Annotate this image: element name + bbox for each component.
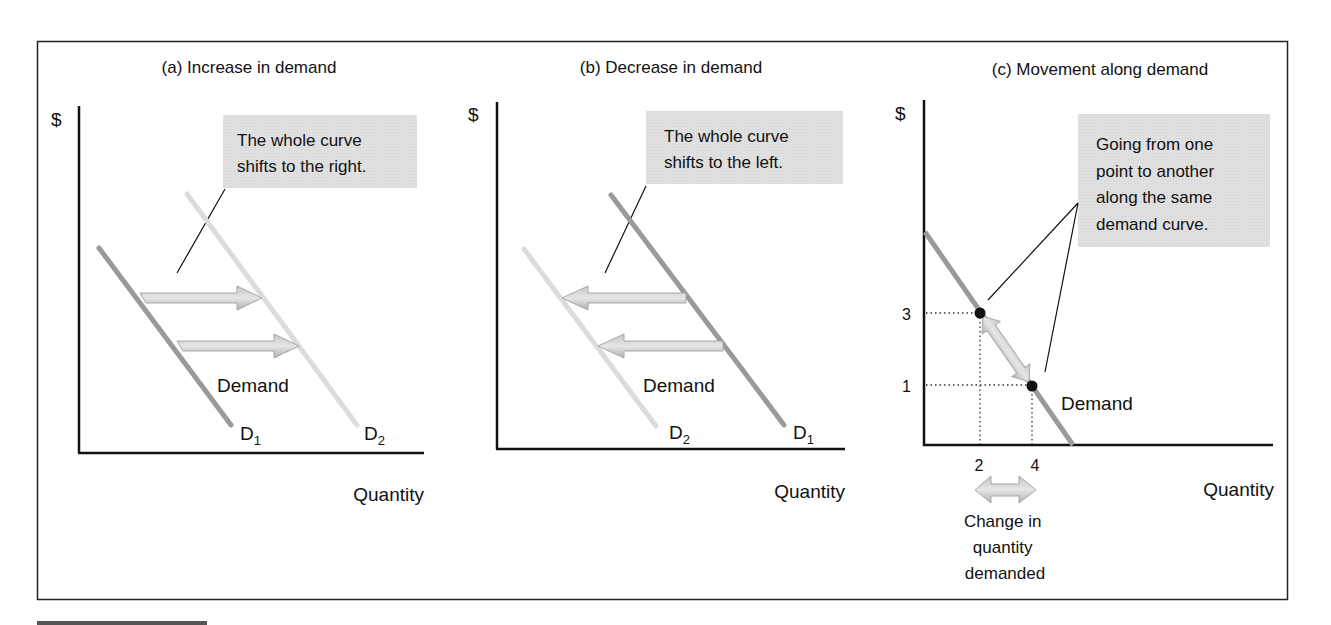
panel-b-title: (b) Decrease in demand xyxy=(580,58,762,77)
panel-b-demand-label: Demand xyxy=(643,375,715,396)
callout-line: point to another xyxy=(1096,162,1214,181)
panel-c-point-4-1 xyxy=(1027,381,1038,392)
panel-b-shift-arrow-lower xyxy=(598,334,723,358)
panel-a-shift-arrow-upper xyxy=(140,286,262,310)
panel-b-d2-curve xyxy=(524,249,656,426)
panel-c-y-tick-3: 3 xyxy=(902,306,911,323)
panel-a-title: (a) Increase in demand xyxy=(162,58,337,77)
panel-a-d1-curve xyxy=(99,248,231,425)
panel-c-leader-line-upper xyxy=(988,203,1078,300)
panel-c: (c) Movement along demand $ Quantity Goi… xyxy=(895,60,1274,583)
curve-name: D xyxy=(793,422,807,443)
panel-a-callout-box xyxy=(223,115,417,188)
curve-subscript: 1 xyxy=(807,432,814,447)
panel-a: (a) Increase in demand $ Quantity The wh… xyxy=(51,58,424,505)
panel-b: (b) Decrease in demand $ Quantity The wh… xyxy=(468,58,845,502)
curve-name: D xyxy=(240,423,254,444)
panel-b-x-axis-label: Quantity xyxy=(774,481,845,502)
panel-a-y-axis-label: $ xyxy=(51,109,62,130)
panel-b-callout-box xyxy=(646,111,843,184)
callout-line: Going from one xyxy=(1096,135,1213,154)
note-line: Change in xyxy=(964,512,1042,531)
panel-a-d1-label: D1 xyxy=(240,423,261,448)
panel-c-x-axis-label: Quantity xyxy=(1203,479,1274,500)
curve-subscript: 2 xyxy=(378,433,385,448)
panel-b-d2-label: D2 xyxy=(669,422,690,447)
panel-c-change-note: Change in quantity demanded xyxy=(964,512,1046,583)
panel-c-x-tick-2: 2 xyxy=(975,457,984,474)
panel-b-d1-label: D1 xyxy=(793,422,814,447)
panel-a-x-axis-label: Quantity xyxy=(353,484,424,505)
curve-name: D xyxy=(669,422,683,443)
callout-line: demand curve. xyxy=(1096,215,1208,234)
curve-subscript: 2 xyxy=(683,432,690,447)
panel-c-title: (c) Movement along demand xyxy=(992,60,1208,79)
panel-c-demand-label: Demand xyxy=(1061,393,1133,414)
panel-c-x-tick-4: 4 xyxy=(1031,457,1040,474)
note-line: quantity xyxy=(973,538,1033,557)
panel-c-movement-arrow xyxy=(974,310,1038,388)
panel-c-y-axis-label: $ xyxy=(895,103,906,124)
panel-b-y-axis-label: $ xyxy=(468,104,479,125)
panel-c-y-tick-1: 1 xyxy=(902,378,911,395)
panel-a-shift-arrow-lower xyxy=(177,334,299,358)
callout-line: along the same xyxy=(1096,188,1212,207)
panel-a-leader-line xyxy=(177,189,225,273)
callout-line: The whole curve xyxy=(237,131,362,150)
panel-c-point-2-3 xyxy=(975,308,986,319)
panel-b-shift-arrow-upper xyxy=(562,286,686,310)
callout-line: shifts to the left. xyxy=(664,153,783,172)
panel-c-leader-line-lower xyxy=(1045,203,1078,372)
note-line: demanded xyxy=(965,564,1045,583)
callout-line: shifts to the right. xyxy=(237,157,366,176)
callout-line: The whole curve xyxy=(664,127,789,146)
demand-figure: (a) Increase in demand $ Quantity The wh… xyxy=(0,0,1331,625)
caption-bar xyxy=(37,621,207,625)
curve-subscript: 1 xyxy=(254,433,261,448)
panel-a-demand-label: Demand xyxy=(217,375,289,396)
panel-a-d2-label: D2 xyxy=(364,423,385,448)
panel-c-quantity-change-arrow xyxy=(975,476,1036,503)
curve-name: D xyxy=(364,423,378,444)
